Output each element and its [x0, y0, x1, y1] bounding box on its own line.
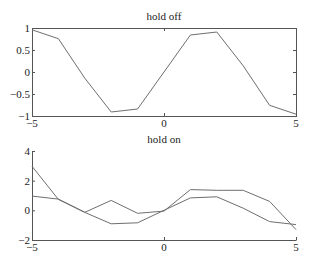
y-tick-label: 1: [25, 22, 31, 34]
axes-hold-on: hold on −505420−2: [18, 133, 299, 253]
y-tick-label: 0.5: [16, 44, 30, 56]
x-tick-label: 0: [161, 117, 167, 129]
y-tick-label: 0: [25, 204, 31, 216]
chart-title-hold-on: hold on: [147, 133, 181, 145]
x-tick-label: 5: [293, 241, 299, 253]
axes-box: [33, 29, 297, 117]
y-tick-label: 0: [25, 66, 31, 78]
series-line: [32, 196, 296, 225]
figure: hold off −50510.50−0.5−1 hold on −505420…: [0, 0, 314, 269]
axes-frame: [33, 29, 297, 117]
chart-title-hold-off: hold off: [147, 10, 182, 22]
x-tick-label: 0: [161, 241, 167, 253]
axis-ticks: −505420−2: [18, 145, 299, 253]
y-tick-label: −0.5: [10, 88, 30, 100]
y-tick-label: 2: [25, 175, 31, 187]
y-tick-label: 4: [25, 145, 31, 157]
series-line: [32, 30, 296, 114]
plot-lines: [32, 166, 296, 229]
y-tick-label: −2: [18, 234, 30, 246]
plot-lines: [32, 30, 296, 114]
y-tick-label: −1: [18, 110, 30, 122]
series-line: [32, 166, 296, 229]
axis-ticks: −50510.50−0.5−1: [10, 22, 299, 129]
x-tick-label: 5: [293, 117, 299, 129]
axes-hold-off: hold off −50510.50−0.5−1: [10, 10, 299, 129]
